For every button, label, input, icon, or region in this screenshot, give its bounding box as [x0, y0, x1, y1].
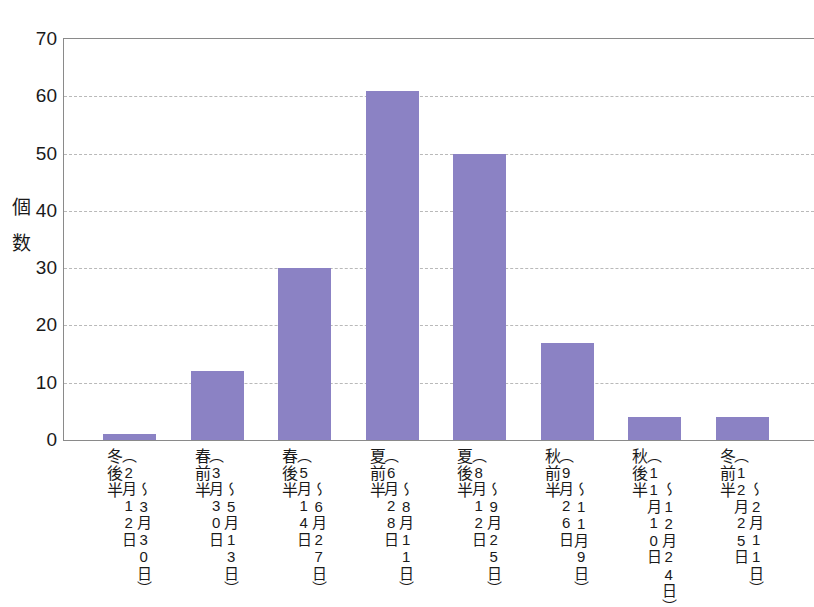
x-axis-label: 〜12月24日）（11月10日秋後半 [616, 448, 692, 607]
x-axis-label: 〜11月9日）（9月26日秋前半 [528, 448, 604, 597]
x-axis-label-range-end: 〜8月11日） [399, 448, 414, 597]
y-axis-tick-label: 50 [36, 143, 57, 165]
x-axis-label: 〜2月11日）（12月25日冬前半 [703, 448, 779, 597]
x-axis-label-season: 秋前半 [544, 448, 559, 499]
x-axis-label-range-start: （9月26日 [559, 448, 574, 547]
x-axis-label-range-start: （11月10日 [646, 448, 661, 565]
x-axis-label: 〜8月11日）（6月28日夏前半 [353, 448, 429, 597]
x-axis-label-range-start: （12月25日 [734, 448, 749, 565]
y-axis-tick-label: 0 [46, 429, 57, 451]
x-axis-label: 〜5月13日）（3月30日春前半 [178, 448, 254, 597]
y-axis-tick-label: 40 [36, 200, 57, 222]
x-axis-label-season: 冬後半 [106, 448, 121, 499]
x-axis-label-range-start: （2月12日 [121, 448, 136, 547]
gridline [64, 268, 814, 269]
x-axis-label-season: 夏前半 [369, 448, 384, 499]
y-axis-tick-label: 30 [36, 257, 57, 279]
x-axis-label: 〜9月25日）（8月12日夏後半 [441, 448, 517, 597]
x-axis-label-season: 夏後半 [456, 448, 471, 499]
bar [716, 417, 769, 440]
bar [541, 343, 594, 440]
bar [366, 91, 419, 440]
x-axis-label-season: 春後半 [281, 448, 296, 499]
x-axis-label-season: 冬前半 [719, 448, 734, 499]
gridline [64, 96, 814, 97]
x-axis-label: 〜6月27日）（5月14日春後半 [266, 448, 342, 597]
gridline [64, 383, 814, 384]
gridline [64, 325, 814, 326]
bar [453, 154, 506, 440]
y-axis-tick-label: 20 [36, 314, 57, 336]
gridline [64, 211, 814, 212]
y-axis-tick-label: 70 [36, 28, 57, 50]
bar [628, 417, 681, 440]
x-axis-label-range-end: 〜12月24日） [661, 448, 676, 607]
y-axis-title: 個 数 [6, 190, 36, 262]
x-axis-label-season: 春前半 [194, 448, 209, 499]
y-axis-tick-label: 10 [36, 372, 57, 394]
bar [103, 434, 156, 440]
gridline [64, 154, 814, 155]
plot-area: 010203040506070 [63, 38, 814, 441]
x-axis-label-season: 秋後半 [631, 448, 646, 499]
y-axis-tick-label: 60 [36, 85, 57, 107]
bar [191, 371, 244, 440]
x-axis-label-range-end: 〜11月9日） [574, 448, 589, 597]
x-axis-label-range-end: 〜6月27日） [311, 448, 326, 597]
x-axis-label-range-start: （5月14日 [296, 448, 311, 547]
x-axis-label: 〜3月30日）（2月12日冬後半 [91, 448, 167, 597]
x-axis-label-range-start: （6月28日 [384, 448, 399, 547]
x-axis-label-range-start: （8月12日 [471, 448, 486, 547]
x-axis-label-range-end: 〜3月30日） [136, 448, 151, 597]
x-axis-label-range-end: 〜5月13日） [224, 448, 239, 597]
bar [278, 268, 331, 440]
x-axis-label-range-end: 〜9月25日） [486, 448, 501, 597]
x-axis-label-range-end: 〜2月11日） [749, 448, 764, 597]
x-axis-label-range-start: （3月30日 [209, 448, 224, 547]
